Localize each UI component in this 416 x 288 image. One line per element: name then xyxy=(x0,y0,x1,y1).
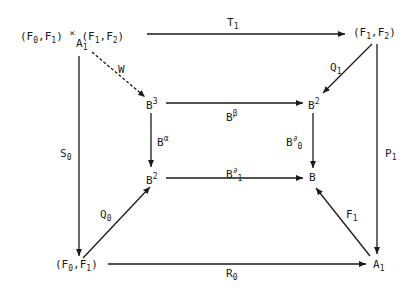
node-inner-bottom-left: B2 xyxy=(146,171,157,187)
label-B-beta: Bβ xyxy=(226,108,237,124)
node-bottom-right: A1 xyxy=(373,259,384,275)
node-top-right: (F1,F2) xyxy=(353,27,396,43)
node-inner-top-left: B3 xyxy=(146,96,157,112)
label-Q0: Q0 xyxy=(100,209,111,225)
label-W: W xyxy=(118,64,125,76)
node-inner-top-right: B2 xyxy=(308,96,319,112)
label-R0: R0 xyxy=(226,268,237,284)
label-P1: P1 xyxy=(385,148,396,164)
label-B-alpha: Bα xyxy=(157,133,168,149)
label-B-d1: B∂1 xyxy=(226,165,242,185)
arrow-F1 xyxy=(316,188,370,256)
label-T1: T1 xyxy=(227,17,238,33)
label-B-d0: B∂0 xyxy=(286,133,302,153)
node-inner-bottom-right: B xyxy=(309,172,316,184)
label-Q1: Q1 xyxy=(330,62,341,78)
node-bottom-left: (F0,F1) xyxy=(55,259,98,275)
label-S0: S0 xyxy=(60,148,71,164)
label-F1: F1 xyxy=(346,209,357,225)
node-top-left-sub: A1 xyxy=(76,38,87,54)
node-top-left: (F0,F1) × (F1,F2) xyxy=(20,27,124,47)
arrow-Q0 xyxy=(83,187,150,258)
